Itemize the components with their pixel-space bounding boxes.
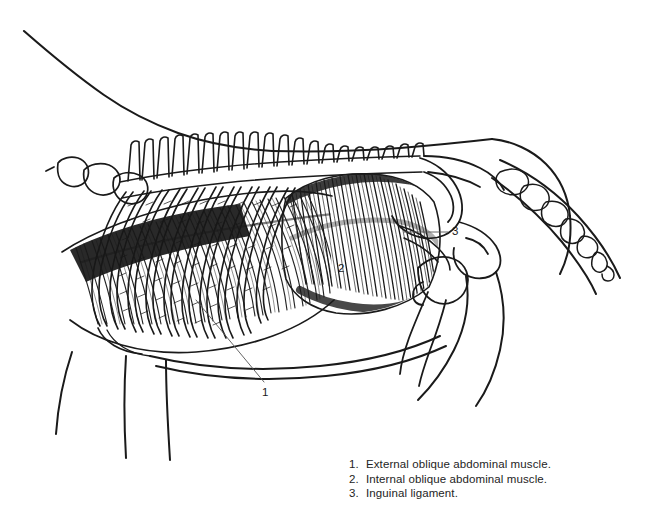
pelvis-and-sacrum <box>392 156 504 386</box>
legend-label-2: Internal oblique abdominal muscle. <box>366 472 609 487</box>
legend: 1. External oblique abdominal muscle. 2.… <box>349 457 609 501</box>
internal-oblique-abdominal-muscle <box>286 174 440 308</box>
illustration-page: 1 2 3 1. External oblique abdominal musc… <box>0 0 648 515</box>
anatomy-illustration <box>0 0 648 515</box>
legend-number-3: 3. <box>349 486 366 501</box>
thoracic-spine <box>120 132 424 198</box>
legend-number-2: 2. <box>349 472 366 487</box>
legend-label-3: Inguinal ligament. <box>366 486 609 501</box>
callout-number-3: 3 <box>452 226 458 238</box>
legend-item-2: 2. Internal oblique abdominal muscle. <box>349 472 609 487</box>
leader-line-1 <box>196 300 264 382</box>
callout-number-1: 1 <box>262 387 268 399</box>
callout-number-2: 2 <box>338 263 344 275</box>
cervical-vertebrae <box>46 157 148 204</box>
legend-number-1: 1. <box>349 457 366 472</box>
legend-item-3: 3. Inguinal ligament. <box>349 486 609 501</box>
legend-item-1: 1. External oblique abdominal muscle. <box>349 457 609 472</box>
tail-vertebrae <box>496 169 614 281</box>
legend-label-1: External oblique abdominal muscle. <box>366 457 609 472</box>
